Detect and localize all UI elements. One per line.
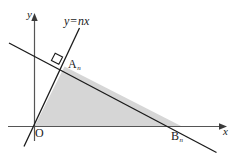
point-a-subscript: n bbox=[77, 64, 81, 72]
geometry-figure: y x O y=nx An Bn bbox=[0, 0, 234, 161]
point-b-label: Bn bbox=[171, 130, 183, 142]
x-axis-label: x bbox=[223, 126, 228, 137]
right-angle-icon bbox=[51, 53, 62, 64]
point-a-label: An bbox=[68, 58, 80, 70]
origin-label: O bbox=[35, 127, 44, 139]
y-axis-label: y bbox=[27, 9, 32, 20]
point-a-letter: A bbox=[68, 57, 77, 71]
y-axis-arrowhead bbox=[31, 13, 37, 21]
line-equation-rhs: nx bbox=[78, 14, 89, 28]
line-equation-equals: = bbox=[69, 14, 78, 28]
point-b-subscript: n bbox=[180, 136, 184, 144]
line-equation-label: y=nx bbox=[64, 15, 89, 27]
point-b-letter: B bbox=[171, 129, 179, 143]
